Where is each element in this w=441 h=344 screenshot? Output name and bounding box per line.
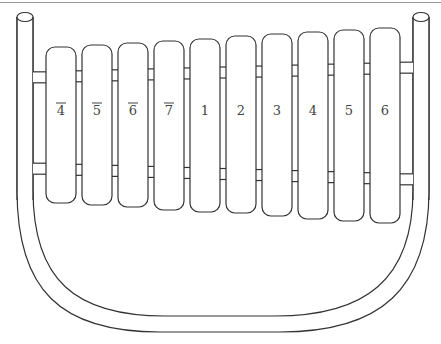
lower-rail-segment <box>33 163 46 174</box>
xylophone-bar-6[interactable]: 2 <box>226 36 256 213</box>
xylophone-bar-7[interactable]: 3 <box>262 34 292 216</box>
xylophone-bar-3[interactable]: 6 <box>118 43 148 207</box>
bar-note-label: 1 <box>201 103 209 118</box>
xylophone-bar-2[interactable]: 5 <box>82 45 112 205</box>
left-post-cap <box>17 13 33 22</box>
xylophone-diagram: 4567123456 <box>0 0 441 344</box>
upper-rail-segment <box>400 62 413 73</box>
xylophone-bar-10[interactable]: 6 <box>370 28 400 223</box>
xylophone-bar-5[interactable]: 1 <box>190 39 220 212</box>
lower-rail-segment <box>328 172 334 183</box>
xylophone-bar-1[interactable]: 4 <box>46 47 76 203</box>
left-post-body <box>18 17 33 197</box>
right-post-body <box>414 17 429 197</box>
bar-note-label: 4 <box>57 103 65 118</box>
upper-rail-segment <box>364 63 370 74</box>
bar-note-label: 5 <box>345 103 353 118</box>
upper-rail-segment <box>292 65 298 76</box>
right-post-cap <box>413 13 429 22</box>
xylophone-bars: 4567123456 <box>46 28 400 223</box>
lower-rail-segment <box>76 164 82 175</box>
lower-rail-segment <box>292 171 298 182</box>
upper-rail-segment <box>33 72 46 83</box>
lower-rail-segment <box>400 174 413 185</box>
bar-note-label: 4 <box>309 103 317 118</box>
lower-rail-segment <box>220 169 226 180</box>
xylophone-bar-4[interactable]: 7 <box>154 41 184 210</box>
xylophone-bar-9[interactable]: 5 <box>334 30 364 221</box>
lower-rail-segment <box>364 173 370 184</box>
bar-note-label: 5 <box>93 103 101 118</box>
upper-rail-segment <box>76 71 82 82</box>
lower-rail-segment <box>256 170 262 181</box>
upper-rail-segment <box>112 70 118 81</box>
upper-rail-segment <box>328 64 334 75</box>
upper-rail-segment <box>184 68 190 79</box>
upper-rail-segment <box>256 66 262 77</box>
upper-rail-segment <box>148 69 154 80</box>
bar-note-label: 6 <box>129 103 137 118</box>
lower-rail-segment <box>112 165 118 176</box>
lower-rail-segment <box>184 167 190 178</box>
bar-note-label: 2 <box>237 103 245 118</box>
upper-rail-segment <box>220 67 226 78</box>
bar-note-label: 3 <box>273 103 281 118</box>
bar-note-label: 6 <box>381 103 389 118</box>
xylophone-bar-8[interactable]: 4 <box>298 32 328 219</box>
lower-rail-segment <box>148 166 154 177</box>
bar-note-label: 7 <box>165 103 173 118</box>
